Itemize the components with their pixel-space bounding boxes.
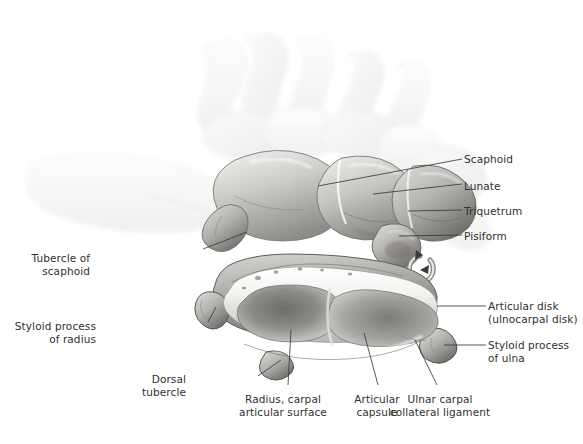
distal-articular-surface: [195, 254, 457, 380]
label-lunate: Lunate: [464, 180, 501, 193]
label-ulnar-carpal-collateral-ligament: Ulnar carpal collateral ligament: [385, 393, 495, 418]
radial-styloid: [195, 292, 229, 329]
proximal-carpal-row: [202, 150, 476, 268]
label-dorsal-tubercle: Dorsal tubercle: [116, 373, 186, 398]
label-radius-carpal-articular-surface: Radius, carpal articular surface: [223, 393, 343, 418]
label-articular-disk: Articular disk (ulnocarpal disk): [488, 300, 578, 325]
anatomy-illustration: [0, 0, 583, 444]
radius-carpal-facet: [237, 285, 341, 342]
label-tubercle-of-scaphoid: Tubercle of scaphoid: [0, 252, 90, 277]
label-styloid-process-of-ulna: Styloid process of ulna: [488, 339, 569, 364]
label-styloid-process-of-radius: Styloid process of radius: [0, 320, 96, 345]
anatomy-figure: ScaphoidLunateTriquetrumPisiformTubercle…: [0, 0, 583, 444]
label-scaphoid: Scaphoid: [464, 153, 513, 166]
label-pisiform: Pisiform: [464, 230, 507, 243]
label-triquetrum: Triquetrum: [464, 205, 522, 218]
